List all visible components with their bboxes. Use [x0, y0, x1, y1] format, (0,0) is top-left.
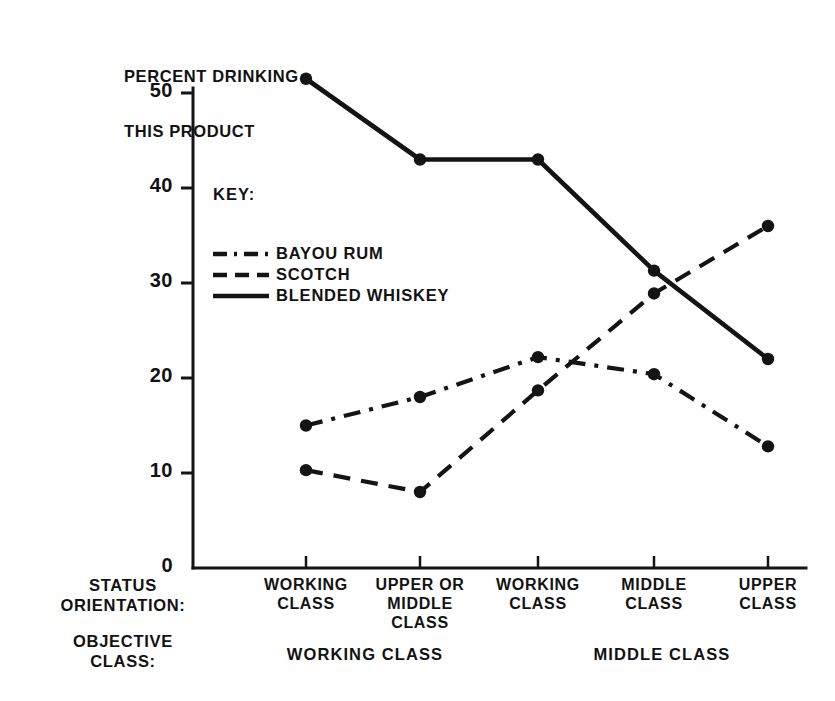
legend-title: KEY: [213, 185, 449, 203]
legend-swatch-solid-icon [213, 288, 269, 302]
data-point [648, 264, 660, 276]
data-point [762, 353, 774, 365]
y-tick-label: 40 [117, 174, 173, 196]
legend-item: SCOTCH [213, 263, 449, 284]
chart-container: PERCENT DRINKING THIS PRODUCT 5040302010… [0, 0, 835, 701]
chart-legend: KEY: BAYOU RUMSCOTCHBLENDED WHISKEY [213, 148, 449, 342]
x-axis-ticks [306, 556, 768, 568]
data-point [762, 440, 774, 452]
objective-class-group-label: WORKING CLASS [235, 645, 495, 663]
y-tick-label: 50 [117, 79, 173, 101]
data-point [532, 384, 544, 396]
data-point [532, 153, 544, 165]
y-tick-label: 30 [117, 269, 173, 291]
y-tick-label: 0 [117, 554, 173, 576]
data-point [532, 351, 544, 363]
legend-swatch-dashdot-icon [213, 246, 269, 260]
legend-swatch-dashed-icon [213, 267, 269, 281]
legend-label: SCOTCH [276, 265, 350, 283]
data-point [414, 486, 426, 498]
legend-label: BAYOU RUM [276, 244, 383, 262]
legend-label: BLENDED WHISKEY [276, 286, 449, 304]
data-point [414, 391, 426, 403]
data-point [648, 287, 660, 299]
data-point [648, 368, 660, 380]
data-point [762, 220, 774, 232]
y-tick-label: 20 [117, 364, 173, 386]
y-tick-label: 10 [117, 459, 173, 481]
data-point [300, 464, 312, 476]
status-orientation-label: STATUS ORIENTATION: [48, 576, 198, 616]
axis-title-line-2: THIS PRODUCT [124, 122, 299, 140]
objective-class-group-label: MIDDLE CLASS [532, 645, 792, 663]
series-bayou-rum [300, 351, 774, 453]
data-point [300, 419, 312, 431]
data-point [300, 73, 312, 85]
legend-item: BAYOU RUM [213, 242, 449, 263]
series-line [306, 357, 768, 446]
legend-item: BLENDED WHISKEY [213, 284, 449, 305]
legend-item-list: BAYOU RUMSCOTCHBLENDED WHISKEY [213, 242, 449, 305]
x-tick-label: UPPER CLASS [698, 576, 835, 614]
objective-class-label: OBJECTIVE CLASS: [48, 632, 198, 672]
